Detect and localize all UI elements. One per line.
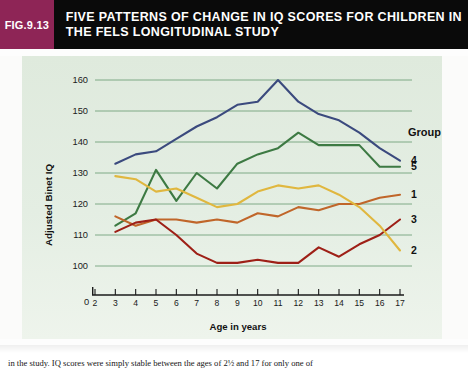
y-tick-100: 100 bbox=[72, 261, 88, 271]
x-tick-9: 9 bbox=[235, 298, 240, 308]
series-line-group-5 bbox=[115, 133, 400, 226]
y-tick-labels: 100110120130140150160 bbox=[72, 75, 88, 271]
x-tick-labels: 234567891011121314151617 bbox=[93, 298, 405, 308]
y-tick-150: 150 bbox=[72, 106, 88, 116]
x-tick-17: 17 bbox=[395, 298, 405, 308]
x-tick-7: 7 bbox=[194, 298, 199, 308]
series-line-group-3 bbox=[115, 220, 400, 263]
legend-item-group-2: 2 bbox=[411, 244, 417, 256]
gridlines bbox=[95, 80, 412, 266]
x-tick-2: 2 bbox=[93, 298, 98, 308]
legend-item-group-3: 3 bbox=[411, 213, 417, 225]
data-series bbox=[115, 80, 400, 263]
legend-item-group-1: 1 bbox=[411, 188, 417, 200]
y-axis-origin-label: 0 bbox=[84, 297, 89, 307]
x-tick-4: 4 bbox=[133, 298, 138, 308]
y-axis-label: Adjusted Binet IQ bbox=[43, 164, 54, 247]
y-tick-130: 130 bbox=[72, 168, 88, 178]
y-tick-110: 110 bbox=[73, 230, 88, 240]
x-axis-label: Age in years bbox=[209, 321, 266, 332]
legend-item-group-5: 5 bbox=[411, 160, 417, 172]
line-chart: 100110120130140150160 234567891011121314… bbox=[0, 0, 468, 369]
x-tick-15: 15 bbox=[355, 298, 365, 308]
x-tick-11: 11 bbox=[274, 298, 283, 308]
x-tick-14: 14 bbox=[334, 298, 344, 308]
x-axis bbox=[92, 287, 404, 295]
series-line-group-4 bbox=[115, 80, 400, 164]
x-tick-3: 3 bbox=[113, 298, 118, 308]
legend-title: Group bbox=[408, 126, 441, 138]
x-tick-5: 5 bbox=[154, 298, 159, 308]
x-tick-8: 8 bbox=[215, 298, 220, 308]
x-tick-6: 6 bbox=[174, 298, 179, 308]
figure-root: FIG.9.13 FIVE PATTERNS OF CHANGE IN IQ S… bbox=[0, 0, 468, 369]
x-tick-12: 12 bbox=[294, 298, 304, 308]
x-tick-10: 10 bbox=[253, 298, 263, 308]
caption-text: in the study. IQ scores were simply stab… bbox=[8, 358, 460, 369]
y-tick-160: 160 bbox=[72, 75, 88, 85]
y-tick-120: 120 bbox=[72, 199, 88, 209]
y-tick-140: 140 bbox=[72, 137, 88, 147]
legend: Group45132 bbox=[408, 126, 441, 256]
page-scan-edge bbox=[0, 345, 468, 353]
figure-caption: in the study. IQ scores were simply stab… bbox=[0, 345, 468, 369]
x-tick-16: 16 bbox=[375, 298, 385, 308]
x-tick-13: 13 bbox=[314, 298, 324, 308]
